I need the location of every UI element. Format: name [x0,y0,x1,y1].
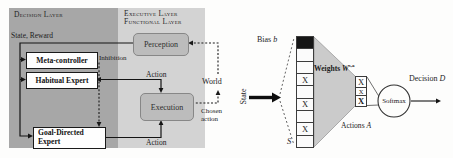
bias-label: Bias b [257,35,277,44]
perception-box: Perception [133,33,189,56]
decision-variable: D [439,74,445,83]
vector-cell-x: X [356,77,366,87]
actions-variable: A [367,121,372,130]
vector-cell-empty [297,110,313,122]
actions-vector: XXX [355,76,367,107]
vector-cell-x-small: X [356,87,366,95]
chosen-action-line2: action [201,115,218,123]
weights-label: Weights Ws,a [314,63,355,73]
meta-controller-label: Meta-controller [36,56,87,65]
chosen-action-label: Chosen action [201,108,222,123]
state-vector-variable: S [287,136,291,146]
decision-label: Decision D [409,74,445,83]
weights-variable: W [342,64,349,73]
vector-cell-empty [297,85,313,97]
weights-triangle [314,37,356,147]
vector-cell-empty [297,135,313,147]
vector-cell-empty [297,48,313,60]
vector-cell-x-bold: X [356,95,366,106]
actions-label: Actions A [341,121,371,130]
vector-cell-empty [297,61,313,73]
goal-directed-expert-box: Goal-Directed Expert [33,127,106,149]
habitual-expert-label: Habitual Expert [36,76,89,85]
perception-label: Perception [144,40,178,49]
world-label: World [202,77,222,86]
execution-label: Execution [151,103,183,112]
habitual-expert-box: Habitual Expert [26,72,98,89]
vector-cell-bias [297,37,313,48]
action-bottom-label: Action [146,138,166,147]
figure-canvas: Decision Layer Executive Layer Functiona… [0,0,453,158]
action-top-label: Action [146,70,166,79]
state-vector: XXX [296,36,314,148]
softmax-label: Softmax [378,97,410,105]
vector-cell-x: X [297,98,313,110]
vector-cell-x: X [297,122,313,134]
weights-superscript: s,a [349,63,355,68]
goal-directed-label-line2: Expert [38,138,60,147]
bias-variable: b [273,35,277,44]
execution-box: Execution [140,93,194,121]
vector-cell-x: X [297,73,313,85]
functional-layer-title: Functional Layer [124,17,182,26]
inhibition-label: Inhibition [99,54,127,62]
state-label: State [239,82,248,112]
state-reward-label: State, Reward [11,31,53,40]
meta-controller-box: Meta-controller [26,52,98,69]
decision-layer-title: Decision Layer [14,10,63,19]
